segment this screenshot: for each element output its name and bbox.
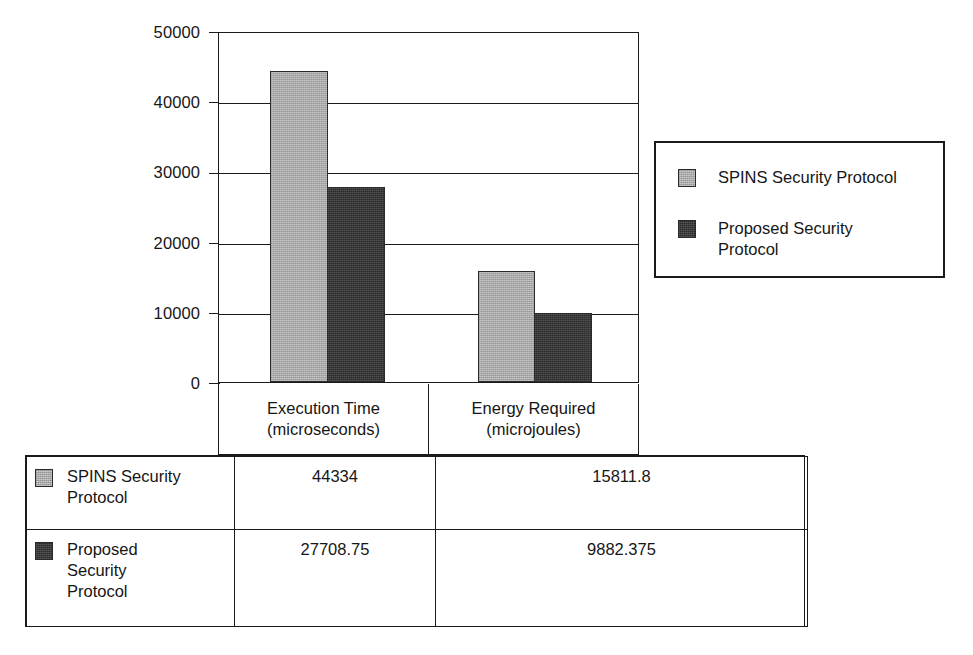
plot-area: [218, 32, 639, 383]
y-tick-label-10000: 10000: [0, 305, 200, 322]
table-value-spins-energy-required: 15811.8: [436, 466, 807, 487]
table-value-proposed-energy-required: 9882.375: [436, 539, 807, 560]
y-tick-label-20000: 20000: [0, 235, 200, 252]
category-label-line2: (microjoules): [486, 419, 580, 440]
category-label-line1: Energy Required: [472, 398, 596, 419]
category-label-line1: Execution Time: [267, 398, 380, 419]
y-tick-label-0: 0: [0, 375, 200, 392]
table-series-name-spins: SPINS Security Protocol: [67, 466, 181, 508]
table-cell-energy-required: 9882.375: [436, 530, 808, 627]
category-cell-energy-required: Energy Required (microjoules): [428, 384, 638, 454]
y-tick-label-30000: 30000: [0, 164, 200, 181]
y-tick-label-50000: 50000: [0, 24, 200, 41]
table-cell-execution-time: 44334: [235, 457, 436, 530]
table-cell-series-name: Proposed Security Protocol: [27, 530, 235, 627]
bar-energy-required-spins[interactable]: [478, 271, 535, 382]
bar-energy-required-proposed[interactable]: [534, 313, 592, 382]
table-cell-execution-time: 27708.75: [235, 530, 436, 627]
table-cell-series-name: SPINS Security Protocol: [27, 457, 235, 530]
legend-swatch-icon-spins: [678, 169, 696, 187]
table-value-proposed-execution-time: 27708.75: [235, 539, 435, 560]
y-tick-label-40000: 40000: [0, 94, 200, 111]
legend-label-spins: SPINS Security Protocol: [718, 167, 897, 188]
y-tick-mark-40000: [209, 102, 218, 103]
category-label-line2: (microseconds): [267, 419, 380, 440]
bar-execution-time-spins[interactable]: [270, 71, 328, 382]
table-swatch-icon-proposed: [35, 542, 53, 560]
table-row: SPINS Security Protocol 44334 15811.8: [27, 457, 808, 530]
y-tick-mark-20000: [209, 243, 218, 244]
y-tick-mark-0: [209, 383, 218, 384]
table-swatch-icon-spins: [35, 469, 53, 487]
legend-item-proposed[interactable]: Proposed Security Protocol: [678, 218, 853, 260]
data-table: SPINS Security Protocol 44334 15811.8: [25, 455, 805, 627]
y-tick-mark-10000: [209, 313, 218, 314]
table-series-name-proposed: Proposed Security Protocol: [67, 539, 138, 602]
category-cell-execution-time: Execution Time (microseconds): [219, 384, 428, 454]
bar-chart-figure: 50000 40000 30000 20000 10000 0 Executio…: [0, 0, 973, 655]
legend: SPINS Security Protocol Proposed Securit…: [654, 141, 945, 278]
legend-swatch-icon-proposed: [678, 220, 696, 238]
table-row: Proposed Security Protocol 27708.75 9882…: [27, 530, 808, 627]
legend-label-proposed: Proposed Security Protocol: [718, 218, 853, 260]
y-tick-mark-30000: [209, 173, 218, 174]
bar-execution-time-proposed[interactable]: [327, 187, 385, 382]
category-label-band: Execution Time (microseconds) Energy Req…: [218, 384, 639, 455]
legend-item-spins[interactable]: SPINS Security Protocol: [678, 167, 897, 188]
table-value-spins-execution-time: 44334: [235, 466, 435, 487]
table-cell-energy-required: 15811.8: [436, 457, 808, 530]
y-tick-mark-50000: [209, 32, 218, 33]
